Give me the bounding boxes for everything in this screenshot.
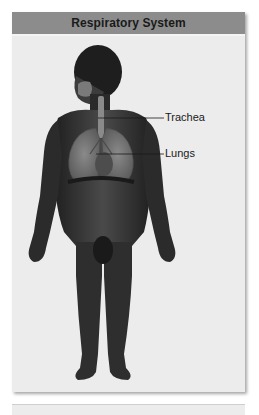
panel-header: Respiratory System — [12, 12, 245, 36]
arm-right — [142, 120, 175, 262]
anatomy-figure: Trachea Lungs — [12, 36, 245, 392]
leg-right — [104, 242, 132, 380]
respiratory-system-panel: Respiratory System — [12, 12, 245, 392]
next-panel-edge — [12, 404, 245, 415]
trachea-label: Trachea — [165, 111, 205, 123]
lungs-label: Lungs — [165, 147, 195, 159]
panel-title: Respiratory System — [71, 16, 186, 30]
arm-left — [29, 120, 62, 262]
trachea — [98, 96, 104, 138]
leg-left — [75, 242, 102, 380]
human-body-illustration — [12, 36, 245, 392]
